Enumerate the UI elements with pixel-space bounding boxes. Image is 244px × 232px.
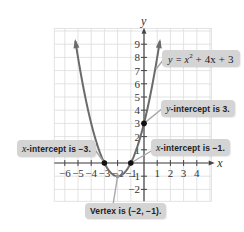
curve-right-arrow-icon <box>156 39 162 48</box>
equation-suffix: + 4x + 3 <box>193 53 234 65</box>
y-tick-label: −1 <box>128 170 140 182</box>
equation-prefix: y = x <box>168 54 189 65</box>
x-tick-label: 4 <box>194 167 200 179</box>
equation-callout: y = x2 + 4x + 3 <box>162 50 240 67</box>
vertex-point <box>116 174 120 178</box>
y-tick-label: 5 <box>135 91 141 103</box>
vertex-leader <box>113 176 118 205</box>
x-intercept-point <box>128 160 134 166</box>
x-tick-label: −5 <box>72 167 84 179</box>
x-intercept-left-callout: x-intercept is −3. <box>17 140 96 157</box>
vertex-callout: Vertex is (−2, −1). <box>85 203 166 219</box>
y-intercept-text: -intercept is 3. <box>171 104 230 114</box>
x-intercept-right-callout: x-intercept is −1. <box>151 139 230 156</box>
y-tick-label: 6 <box>135 78 141 90</box>
curve-left-arrow-icon <box>73 39 79 48</box>
x-tick-label: 3 <box>181 167 187 179</box>
x-tick-label: −6 <box>59 167 71 179</box>
x-tick-label: 1 <box>154 167 160 179</box>
x-intercept-point <box>102 160 108 166</box>
y-tick-label: 7 <box>135 65 141 77</box>
x-tick-label: −4 <box>85 167 97 179</box>
y-tick-label: 8 <box>135 51 141 63</box>
y-intercept-callout: y-intercept is 3. <box>161 100 235 117</box>
vertex-text: Vertex is (−2, −1). <box>90 206 161 216</box>
x-intercept-right-text: -intercept is −1. <box>161 143 225 153</box>
x-tick-label: 2 <box>168 167 174 179</box>
y-intercept-point <box>141 121 147 127</box>
y-tick-label: 4 <box>135 104 141 116</box>
x-intercept-left-text: -intercept is −3. <box>27 144 91 154</box>
y-tick-label: 9 <box>135 38 141 50</box>
y-tick-label: 3 <box>135 117 141 129</box>
y-tick-label: −2 <box>128 183 140 195</box>
y-axis-label: y <box>140 14 147 28</box>
x-axis-label: x <box>216 156 223 170</box>
